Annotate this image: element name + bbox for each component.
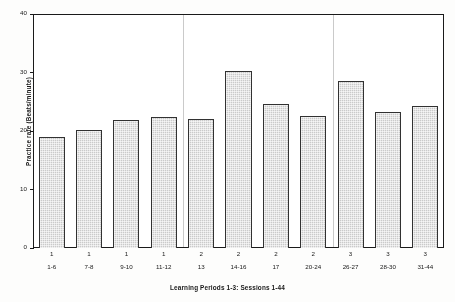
- y-axis-title: Practice rate (Beats/minute): [25, 42, 32, 202]
- x-period-label: 2: [295, 250, 332, 257]
- bar: [225, 71, 251, 248]
- x-sessions-label: 14-16: [220, 263, 257, 270]
- x-tick-group: 111-12: [145, 250, 182, 270]
- x-tick-group: 214-16: [220, 250, 257, 270]
- x-sessions-label: 13: [182, 263, 219, 270]
- bar: [151, 117, 177, 248]
- x-sessions-label: 7-8: [70, 263, 107, 270]
- x-period-label: 3: [332, 250, 369, 257]
- x-sessions-label: 28-30: [369, 263, 406, 270]
- x-period-label: 1: [108, 250, 145, 257]
- x-sessions-label: 17: [257, 263, 294, 270]
- y-tick-label: 40: [3, 9, 27, 16]
- x-sessions-label: 11-12: [145, 263, 182, 270]
- x-tick-group: 11-6: [33, 250, 70, 270]
- y-tick-label: 30: [3, 68, 27, 75]
- bar: [412, 106, 438, 248]
- x-axis-labels: 11-617-819-10111-12213214-16217220-24326…: [33, 250, 444, 284]
- x-sessions-label: 20-24: [295, 263, 332, 270]
- x-axis-title: Learning Periods 1-3: Sessions 1-44: [0, 284, 455, 291]
- bar: [263, 104, 289, 248]
- bar: [188, 119, 214, 248]
- bar: [76, 130, 102, 248]
- x-period-label: 1: [70, 250, 107, 257]
- bar: [338, 81, 364, 248]
- bar: [300, 116, 326, 248]
- x-period-label: 3: [407, 250, 444, 257]
- x-period-label: 2: [220, 250, 257, 257]
- x-sessions-label: 31-44: [407, 263, 444, 270]
- bar-series: [33, 14, 444, 248]
- x-tick-group: 326-27: [332, 250, 369, 270]
- y-tick-label: 20: [3, 126, 27, 133]
- x-period-label: 3: [369, 250, 406, 257]
- x-tick-group: 217: [257, 250, 294, 270]
- x-period-label: 2: [182, 250, 219, 257]
- y-tick-label: 0: [3, 243, 27, 250]
- x-tick-group: 17-8: [70, 250, 107, 270]
- x-period-label: 1: [145, 250, 182, 257]
- x-tick-group: 19-10: [108, 250, 145, 270]
- bar-chart: Practice rate (Beats/minute) 010203040 1…: [0, 0, 455, 302]
- x-tick-group: 213: [182, 250, 219, 270]
- x-sessions-label: 26-27: [332, 263, 369, 270]
- x-sessions-label: 1-6: [33, 263, 70, 270]
- x-period-label: 1: [33, 250, 70, 257]
- x-sessions-label: 9-10: [108, 263, 145, 270]
- x-period-label: 2: [257, 250, 294, 257]
- bar: [39, 137, 65, 248]
- bar: [113, 120, 139, 248]
- x-tick-group: 220-24: [295, 250, 332, 270]
- x-tick-group: 331-44: [407, 250, 444, 270]
- y-tick-label: 10: [3, 185, 27, 192]
- bar: [375, 112, 401, 248]
- x-tick-group: 328-30: [369, 250, 406, 270]
